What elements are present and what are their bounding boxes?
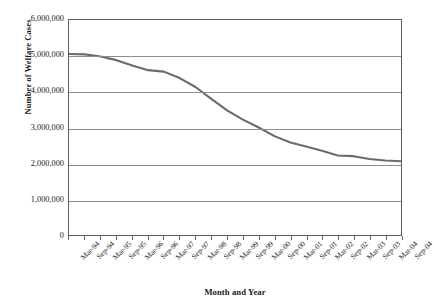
gridline [69, 201, 401, 202]
y-axis-tick-label: 2,000,000 [8, 160, 64, 168]
welfare-cases-polyline [69, 54, 401, 161]
x-axis-tick-labels: Mar-94Sep-94Mar-95Sep-95Mar-96Sep-96Mar-… [0, 240, 408, 284]
plot-area [68, 19, 402, 236]
gridline [69, 56, 401, 57]
gridline [69, 129, 401, 130]
y-axis-tick-labels: 6,000,0005,000,0004,000,0003,000,0002,00… [6, 0, 64, 246]
series-line [69, 20, 401, 235]
y-axis-tick-label: 6,000,000 [8, 15, 64, 23]
y-axis-tick-label: 4,000,000 [8, 87, 64, 95]
gridline [69, 165, 401, 166]
y-axis-tick-label: 5,000,000 [8, 51, 64, 59]
x-axis-title: Month and Year [68, 287, 402, 297]
y-axis-tick-label: 3,000,000 [8, 124, 64, 132]
y-axis-tick-label: 1,000,000 [8, 196, 64, 204]
gridline [69, 92, 401, 93]
